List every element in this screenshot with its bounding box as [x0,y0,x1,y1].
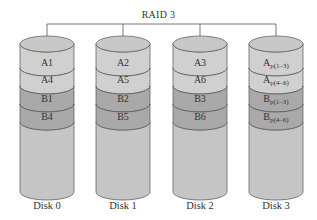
block-cell: A5 [96,74,150,87]
parity-cell: Bp(1–3) [249,93,303,106]
disk-1-label: Disk 1 [93,200,153,211]
block-cell: A2 [96,57,150,70]
parity-cell: Ap(4–6) [249,74,303,87]
block-cell: B1 [20,93,74,106]
block-cell: A1 [20,57,74,70]
disk-2-label: Disk 2 [170,200,230,211]
parity-cell: Ap(1–3) [249,57,303,70]
parity-cell: Bp(4–6) [249,111,303,124]
disk-0-label: Disk 0 [17,200,77,211]
disk-3-label: Disk 3 [246,200,306,211]
block-cell: B3 [173,93,227,106]
block-cell: A4 [20,74,74,87]
diagram-title: RAID 3 [0,9,317,20]
connector-lines [47,24,276,43]
block-cell: B4 [20,111,74,124]
raid3-diagram [0,0,317,220]
block-cell: B5 [96,111,150,124]
block-cell: A3 [173,57,227,70]
block-cell: A6 [173,74,227,87]
block-cell: B2 [96,93,150,106]
block-cell: B6 [173,111,227,124]
